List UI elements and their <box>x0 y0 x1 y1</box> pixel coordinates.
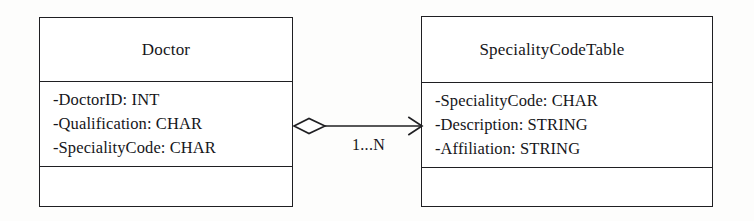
class-name-specialitycodetable: SpecialityCodeTable <box>422 40 712 60</box>
class-box-doctor[interactable]: Doctor -DoctorID: INT -Qualification: CH… <box>39 17 293 207</box>
class-name-compartment-doctor: Doctor <box>40 18 292 81</box>
operations-compartment-doctor <box>40 166 292 206</box>
attribute-row: -Affiliation: STRING <box>435 137 712 161</box>
uml-class-diagram-canvas: Doctor -DoctorID: INT -Qualification: CH… <box>0 0 754 221</box>
attribute-row: -SpecialityCode: CHAR <box>435 89 712 113</box>
association-multiplicity-label: 1...N <box>352 136 385 154</box>
class-box-specialitycodetable[interactable]: SpecialityCodeTable -SpecialityCode: CHA… <box>421 16 713 207</box>
class-name-doctor: Doctor <box>40 40 292 60</box>
attribute-row: -Description: STRING <box>435 113 712 137</box>
attributes-compartment-doctor: -DoctorID: INT -Qualification: CHAR -Spe… <box>40 81 292 166</box>
operations-compartment-specialitycodetable <box>422 167 712 206</box>
attribute-row: -Qualification: CHAR <box>53 112 292 136</box>
attributes-compartment-specialitycodetable: -SpecialityCode: CHAR -Description: STRI… <box>422 82 712 167</box>
attribute-row: -SpecialityCode: CHAR <box>53 136 292 160</box>
aggregation-diamond-icon <box>294 119 325 134</box>
class-name-compartment-specialitycodetable: SpecialityCodeTable <box>422 17 712 82</box>
attribute-row: -DoctorID: INT <box>53 88 292 112</box>
